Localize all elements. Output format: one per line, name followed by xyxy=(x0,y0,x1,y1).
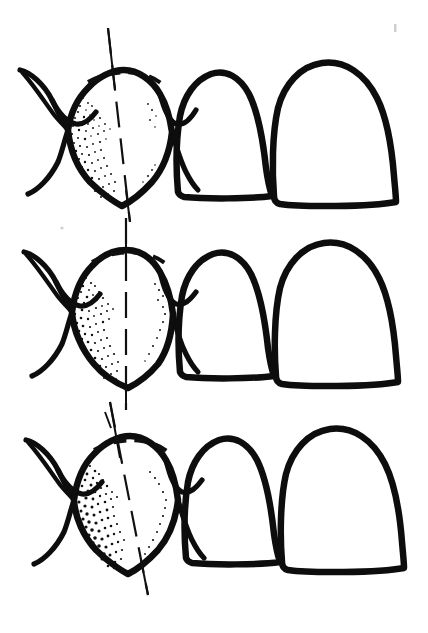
stray-speck-2 xyxy=(60,226,63,229)
stray-speck xyxy=(394,24,397,32)
dental-axis-figure: Long axis of the maxillary lateral incis… xyxy=(0,0,428,633)
figure-background xyxy=(0,0,428,633)
illustration-canvas: Long axis of the maxillary lateral incis… xyxy=(0,0,428,633)
